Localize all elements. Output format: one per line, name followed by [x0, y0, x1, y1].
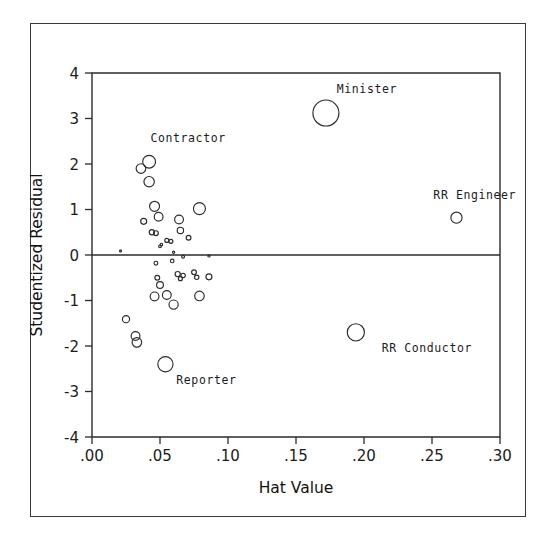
data-point: [192, 270, 197, 275]
data-point: [193, 203, 205, 215]
x-tick-label: .05: [148, 447, 172, 465]
data-point: [186, 235, 191, 240]
y-tick-label: 0: [69, 247, 79, 265]
y-axis-title: Studentized Residual: [28, 173, 46, 336]
data-point: [178, 277, 182, 281]
data-point: [141, 218, 147, 224]
data-point: [195, 291, 205, 301]
data-point: [136, 164, 146, 174]
data-point: [173, 251, 175, 253]
scatter-plot: .00.05.10.15.20.25.3043210-1-2-3-4 Minis…: [0, 0, 555, 541]
data-point: [157, 282, 164, 289]
y-tick-label: 2: [69, 156, 79, 174]
data-point: [175, 215, 184, 224]
x-tick-label: .10: [216, 447, 240, 465]
x-tick-label: .25: [420, 447, 444, 465]
data-point: [162, 291, 171, 300]
data-point: [150, 292, 159, 301]
data-point: [165, 238, 169, 242]
data-point: [144, 177, 154, 187]
data-point: [182, 255, 185, 258]
data-point: [132, 338, 142, 348]
data-point: [155, 275, 160, 280]
y-tick-label: 4: [69, 65, 79, 83]
data-point: [170, 259, 174, 263]
point-annotations-layer: MinisterContractorRR EngineerRR Conducto…: [150, 82, 516, 387]
x-tick-label: .15: [284, 447, 308, 465]
x-tick-label: .20: [352, 447, 376, 465]
y-tick-label: -3: [64, 383, 79, 401]
data-point-rr-conductor: [347, 324, 364, 341]
y-tick-label: -4: [64, 429, 79, 447]
y-tick-label: -1: [64, 292, 79, 310]
data-point: [154, 212, 163, 221]
data-point: [150, 201, 160, 211]
tick-labels-layer: .00.05.10.15.20.25.3043210-1-2-3-4: [64, 65, 512, 466]
data-point: [120, 250, 122, 252]
x-tick-label: .30: [488, 447, 512, 465]
data-point: [131, 332, 140, 341]
data-point: [175, 272, 180, 277]
data-point: [122, 316, 129, 323]
data-point-rr-engineer: [451, 212, 462, 223]
annotation-label: RR Engineer: [433, 188, 516, 202]
x-tick-label: .00: [80, 447, 104, 465]
annotation-label: Contractor: [150, 131, 225, 145]
x-axis-title: Hat Value: [259, 479, 334, 497]
data-point: [195, 275, 199, 279]
annotation-label: RR Conductor: [382, 341, 472, 355]
data-point: [177, 227, 183, 233]
data-point: [160, 243, 163, 246]
y-tick-label: -2: [64, 338, 79, 356]
data-point-minister: [313, 100, 339, 126]
data-point-reporter: [158, 357, 173, 372]
data-point: [154, 261, 158, 265]
y-tick-label: 1: [69, 201, 79, 219]
data-point: [169, 300, 178, 309]
ticks-layer: [85, 73, 500, 444]
figure-root: .00.05.10.15.20.25.3043210-1-2-3-4 Minis…: [0, 0, 555, 541]
data-point: [206, 274, 212, 280]
data-point: [169, 239, 173, 243]
annotation-label: Reporter: [176, 373, 236, 387]
annotation-label: Minister: [337, 82, 397, 96]
y-tick-label: 3: [69, 110, 79, 128]
data-point: [208, 255, 210, 257]
